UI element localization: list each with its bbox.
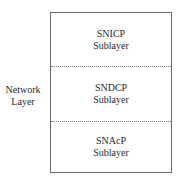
- network-layer-label-line1: Network: [0, 84, 46, 96]
- sublayer-snacp: SNAcP Sublayer: [51, 122, 171, 172]
- sublayer-name: SNDCP: [95, 82, 127, 94]
- sublayer-snicp: SNICP Sublayer: [51, 13, 171, 66]
- network-layer-label-line2: Layer: [0, 96, 46, 108]
- network-layer-label: Network Layer: [0, 84, 46, 108]
- sublayer-suffix: Sublayer: [93, 147, 129, 159]
- sublayer-suffix: Sublayer: [93, 40, 129, 52]
- network-layer-stack: SNICP Sublayer SNDCP Sublayer SNAcP Subl…: [50, 12, 172, 173]
- sublayer-name: SNAcP: [96, 135, 126, 147]
- sublayer-suffix: Sublayer: [93, 94, 129, 106]
- sublayer-name: SNICP: [97, 28, 125, 40]
- sublayer-sndcp: SNDCP Sublayer: [51, 67, 171, 121]
